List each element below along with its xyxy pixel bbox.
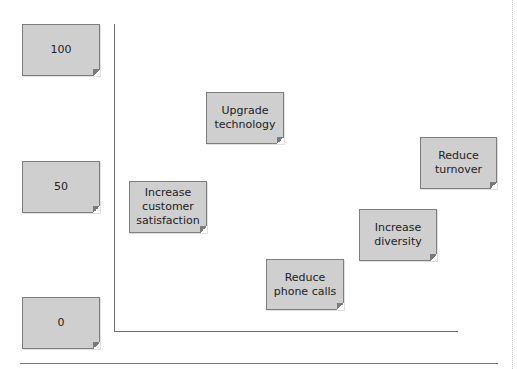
bottom-rule	[20, 363, 498, 364]
page-fold-icon	[430, 254, 437, 261]
scale-note-0[interactable]: 0	[22, 297, 100, 349]
page-fold-icon	[93, 206, 100, 213]
page-fold-icon	[337, 303, 344, 310]
note-text: Increase customer satisfaction	[130, 186, 206, 228]
page-fold-icon	[277, 137, 284, 144]
note-reduce-turnover[interactable]: Reduce turnover	[420, 137, 497, 189]
note-text: Upgrade technology	[207, 104, 283, 132]
scale-note-50[interactable]: 50	[22, 161, 100, 213]
page-edge-dotted	[512, 0, 513, 369]
note-reduce-phone-calls[interactable]: Reduce phone calls	[266, 259, 344, 310]
y-axis-line	[114, 24, 115, 332]
note-increase-diversity[interactable]: Increase diversity	[359, 209, 437, 261]
scale-note-100[interactable]: 100	[22, 24, 100, 76]
page-fold-icon	[200, 226, 207, 233]
page-fold-icon	[93, 342, 100, 349]
scale-label: 0	[55, 316, 68, 330]
note-text: Reduce turnover	[421, 149, 496, 177]
note-increase-customer-satisfaction[interactable]: Increase customer satisfaction	[129, 181, 207, 233]
note-text: Increase diversity	[360, 221, 436, 249]
x-axis-line	[114, 331, 458, 332]
note-upgrade-technology[interactable]: Upgrade technology	[206, 92, 284, 144]
note-text: Reduce phone calls	[267, 271, 343, 299]
page-fold-icon	[93, 69, 100, 76]
scale-label: 50	[51, 180, 71, 194]
page-fold-icon	[490, 182, 497, 189]
scale-label: 100	[48, 43, 75, 57]
